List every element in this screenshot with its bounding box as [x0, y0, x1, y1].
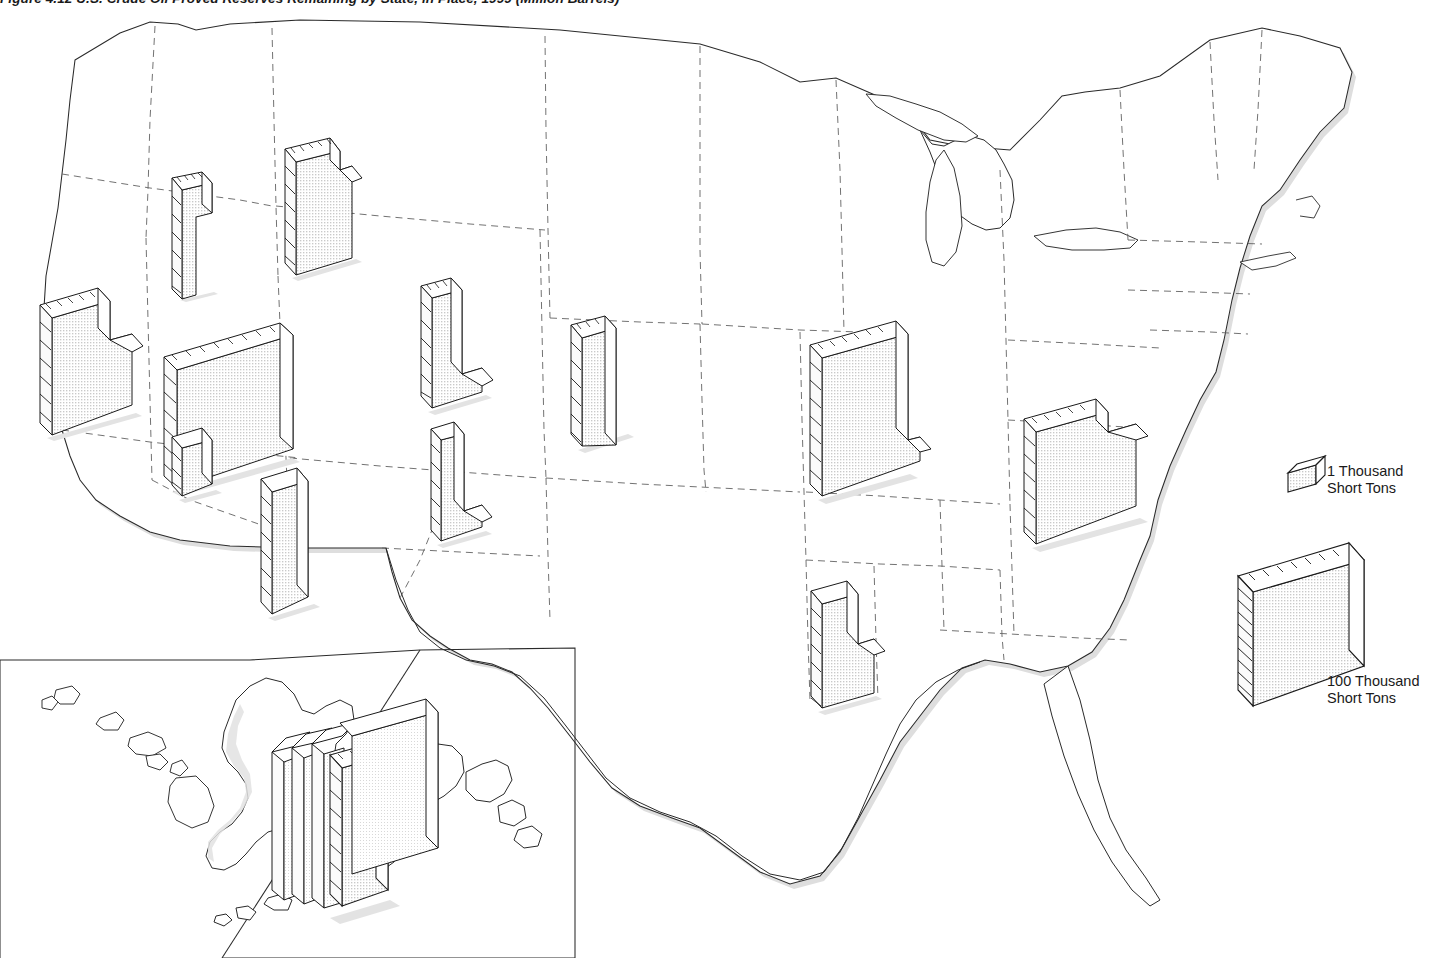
legend-small-prism	[1288, 456, 1325, 492]
legend-large-line2: Short Tons	[1327, 690, 1419, 707]
legend-small-line2: Short Tons	[1327, 480, 1403, 497]
legend-small-caption: 1 Thousand Short Tons	[1327, 463, 1403, 496]
hawaii	[42, 686, 214, 828]
legend-small-line1: 1 Thousand	[1327, 463, 1403, 480]
figure-canvas: Figure 4.12 U.S. Crude Oil Proved Reserv…	[0, 0, 1445, 958]
florida	[1044, 666, 1160, 906]
cape-cod	[1296, 196, 1320, 218]
prism-map	[0, 0, 1445, 958]
legend-large-line1: 100 Thousand	[1327, 673, 1419, 690]
legend-large-caption: 100 Thousand Short Tons	[1327, 673, 1419, 706]
